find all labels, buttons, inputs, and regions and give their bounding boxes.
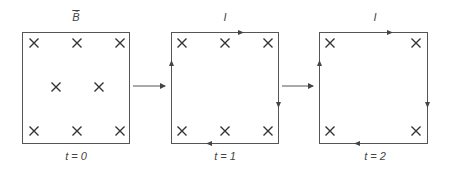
current-label-1: I bbox=[223, 11, 226, 23]
current-arrow-right-icon bbox=[425, 102, 430, 108]
cross-icon bbox=[73, 127, 82, 136]
cross-icon bbox=[30, 39, 39, 48]
cross-icon bbox=[178, 39, 187, 48]
cross-icon bbox=[178, 127, 187, 136]
cross-icon bbox=[52, 83, 61, 92]
magnetic-field-into-page-icons bbox=[178, 39, 273, 136]
current-arrow-right-icon bbox=[276, 102, 281, 108]
panel-t2 bbox=[317, 30, 430, 146]
cross-icon bbox=[412, 127, 421, 136]
flux-diagram bbox=[0, 0, 453, 172]
time-label-2: t = 2 bbox=[364, 150, 386, 162]
field-label-b: B̄ bbox=[72, 11, 79, 23]
cross-icon bbox=[221, 39, 230, 48]
current-label-2: I bbox=[373, 11, 376, 23]
current-arrow-top-icon bbox=[238, 30, 244, 35]
cross-icon bbox=[221, 127, 230, 136]
current-arrow-top-icon bbox=[387, 30, 393, 35]
magnetic-field-into-page-icons bbox=[326, 39, 421, 136]
cross-icon bbox=[116, 127, 125, 136]
cross-icon bbox=[95, 83, 104, 92]
current-arrow-left-icon bbox=[169, 60, 174, 66]
cross-icon bbox=[326, 39, 335, 48]
time-label-1: t = 1 bbox=[214, 150, 236, 162]
current-arrow-bottom-icon bbox=[206, 141, 212, 146]
cross-icon bbox=[116, 39, 125, 48]
field-label-text: B̄ bbox=[72, 11, 79, 23]
cross-icon bbox=[264, 39, 273, 48]
current-arrow-left-icon bbox=[317, 60, 322, 66]
panel-t1 bbox=[169, 30, 281, 146]
cross-icon bbox=[30, 127, 39, 136]
time-label-0: t = 0 bbox=[65, 150, 87, 162]
panel-t0 bbox=[23, 33, 130, 144]
cross-icon bbox=[326, 127, 335, 136]
cross-icon bbox=[264, 127, 273, 136]
cross-icon bbox=[412, 39, 421, 48]
current-arrow-bottom-icon bbox=[354, 141, 360, 146]
cross-icon bbox=[73, 39, 82, 48]
magnetic-field-into-page-icons bbox=[30, 39, 125, 136]
